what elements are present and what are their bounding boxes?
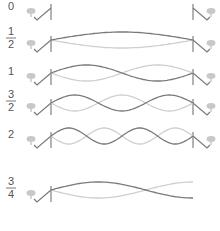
right-tuning-peg-icon xyxy=(207,73,216,82)
wave-row-0: 0 xyxy=(8,0,216,20)
wave-row-3-4: 34 xyxy=(6,175,193,202)
left-tuning-peg-icon xyxy=(27,190,36,199)
row-label-numerator: 3 xyxy=(8,175,14,187)
row-label: 0 xyxy=(8,0,14,12)
row-label-numerator: 3 xyxy=(8,88,14,100)
row-label-denominator: 2 xyxy=(8,101,14,113)
right-tuning-peg-icon xyxy=(207,136,216,145)
right-tuning-peg-icon xyxy=(207,8,216,17)
right-tuning-peg-icon xyxy=(207,103,216,112)
wave-row-2: 2 xyxy=(8,128,216,148)
left-tuning-peg-icon xyxy=(27,103,36,112)
left-tuning-peg-icon xyxy=(27,73,36,82)
wave-row-3-2: 32 xyxy=(6,88,216,115)
row-label: 2 xyxy=(8,128,14,140)
left-tuning-peg-icon xyxy=(27,8,36,17)
standing-wave-diagram: 012132234 xyxy=(0,0,220,231)
wave-dark xyxy=(51,65,193,81)
row-label-numerator: 1 xyxy=(8,25,14,37)
left-tuning-peg-icon xyxy=(27,136,36,145)
wave-row-1: 1 xyxy=(8,65,216,85)
row-label-denominator: 4 xyxy=(8,188,14,200)
wave-dark xyxy=(51,128,193,144)
wave-dark xyxy=(51,95,193,111)
right-tuning-peg-icon xyxy=(207,40,216,49)
wave-light xyxy=(51,95,193,111)
row-label: 1 xyxy=(8,65,14,77)
wave-dark xyxy=(51,32,193,40)
left-tuning-peg-icon xyxy=(27,40,36,49)
row-label-denominator: 2 xyxy=(8,38,14,50)
wave-light xyxy=(51,40,193,48)
wave-row-1-2: 12 xyxy=(6,25,216,52)
